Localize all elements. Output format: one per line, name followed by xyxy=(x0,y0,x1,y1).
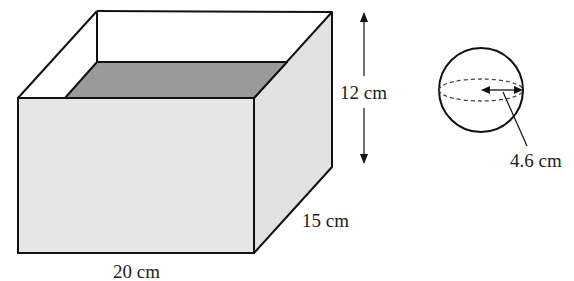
label-radius: 4.6 cm xyxy=(510,151,562,170)
figure-canvas xyxy=(0,0,574,281)
box-front-face xyxy=(18,98,254,253)
label-length: 20 cm xyxy=(113,262,160,281)
sphere-equator-front xyxy=(439,90,523,101)
sphere-equator-back xyxy=(439,79,523,90)
box-top-back-edge xyxy=(97,11,332,12)
label-width: 15 cm xyxy=(302,211,349,230)
sphere xyxy=(439,48,527,146)
water-surface xyxy=(65,62,287,98)
label-height: 12 cm xyxy=(340,83,387,102)
radius-leader-line xyxy=(503,92,527,146)
